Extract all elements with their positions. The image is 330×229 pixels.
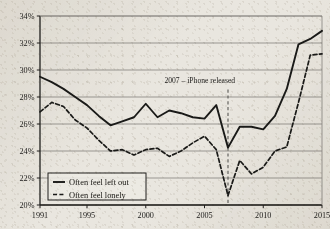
ytick-label-20%: 20% bbox=[19, 201, 34, 210]
legend-label-0: Often feel left out bbox=[69, 178, 129, 187]
ytick-label-24%: 24% bbox=[19, 147, 34, 156]
annotation-label-iphone-release: 2007 – iPhone released bbox=[164, 76, 235, 85]
chart-container: 20%22%24%26%28%30%32%34%1991199520002005… bbox=[0, 0, 330, 229]
xtick-label-2005: 2005 bbox=[196, 211, 212, 220]
xtick-label-1991: 1991 bbox=[32, 211, 48, 220]
legend-label-1: Often feel lonely bbox=[69, 191, 127, 200]
xtick-label-2010: 2010 bbox=[255, 211, 271, 220]
ytick-label-22%: 22% bbox=[19, 174, 34, 183]
xtick-label-2000: 2000 bbox=[138, 211, 154, 220]
line-chart: 20%22%24%26%28%30%32%34%1991199520002005… bbox=[0, 0, 330, 229]
ytick-label-30%: 30% bbox=[19, 66, 34, 75]
ytick-label-32%: 32% bbox=[19, 39, 34, 48]
xtick-label-2015: 2015 bbox=[314, 211, 330, 220]
xtick-label-1995: 1995 bbox=[79, 211, 95, 220]
ytick-label-26%: 26% bbox=[19, 120, 34, 129]
series-line-often-feel-left-out bbox=[40, 31, 322, 148]
ytick-label-28%: 28% bbox=[19, 93, 34, 102]
ytick-label-34%: 34% bbox=[19, 12, 34, 21]
